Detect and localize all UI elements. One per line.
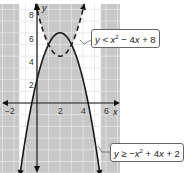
x-tick-label: 2 — [58, 106, 63, 116]
y-tick-label: 4 — [29, 57, 34, 67]
x-axis-label: x — [113, 107, 118, 117]
x-tick-label: 6 — [104, 106, 109, 116]
label-term: + 4 — [143, 148, 159, 159]
label-term: − 4 — [119, 34, 135, 45]
label-term: + 8 — [140, 34, 156, 45]
dashed-inequality-label: y < x2 − 4x + 8 — [91, 29, 160, 48]
y-axis-label: y — [42, 3, 47, 13]
y-tick-label: 6 — [29, 34, 34, 44]
label-term: + 2 — [164, 148, 180, 159]
label-relation: ≥ − — [119, 148, 135, 159]
y-tick-label: 2 — [29, 80, 34, 90]
solid-inequality-label: y ≥ −x2 + 4x + 2 — [110, 143, 184, 162]
x-tick-label: 4 — [81, 106, 86, 116]
y-tick-label: 8 — [29, 10, 34, 20]
label-relation: < — [100, 34, 111, 45]
x-tick-label: −2 — [5, 106, 15, 116]
